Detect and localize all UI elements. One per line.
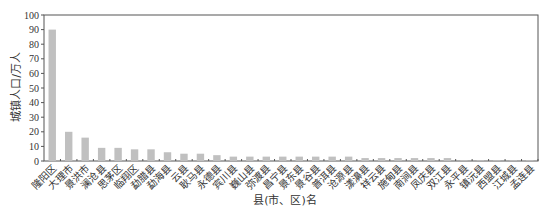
y-tick-label: 0: [34, 156, 39, 167]
bar: [230, 157, 237, 161]
bar: [98, 148, 105, 161]
bar: [147, 149, 154, 161]
y-tick-label: 60: [29, 68, 39, 79]
bar: [328, 157, 335, 161]
bar: [427, 158, 434, 161]
plot-frame: [44, 15, 538, 161]
bar: [361, 158, 368, 161]
bar: [394, 158, 401, 161]
bar: [411, 158, 418, 161]
y-tick-label: 50: [29, 83, 39, 94]
plot-area: 0102030405060708090100隆阳区大理市景洪市澜沧县思茅区临翔区…: [24, 10, 538, 192]
x-axis-title: 县(市、区)名: [253, 193, 317, 207]
bar: [345, 157, 352, 161]
bar: [81, 138, 88, 161]
bar: [526, 160, 533, 161]
bar: [131, 149, 138, 161]
bar: [213, 155, 220, 161]
y-tick-label: 80: [29, 39, 39, 50]
bar: [246, 157, 253, 161]
bar: [114, 148, 121, 161]
bar: [460, 160, 467, 161]
bar: [65, 132, 72, 161]
bar: [477, 160, 484, 161]
bar: [378, 158, 385, 161]
y-tick-label: 70: [29, 53, 39, 64]
y-tick-label: 40: [29, 97, 39, 108]
y-tick-label: 90: [29, 24, 39, 35]
bar: [49, 30, 56, 161]
bar: [164, 152, 171, 161]
y-axis-title: 城镇人口/万人: [9, 52, 23, 122]
bar: [279, 157, 286, 161]
bar-chart: 0102030405060708090100隆阳区大理市景洪市澜沧县思茅区临翔区…: [0, 0, 541, 210]
bar: [296, 157, 303, 161]
y-tick-label: 30: [29, 112, 39, 123]
bar: [197, 154, 204, 161]
bar: [444, 158, 451, 161]
y-tick-label: 20: [29, 126, 39, 137]
bar: [493, 160, 500, 161]
bar: [510, 160, 517, 161]
bar: [180, 154, 187, 161]
bar: [312, 157, 319, 161]
bar: [263, 157, 270, 161]
y-tick-label: 10: [29, 141, 39, 152]
y-tick-label: 100: [24, 10, 39, 21]
